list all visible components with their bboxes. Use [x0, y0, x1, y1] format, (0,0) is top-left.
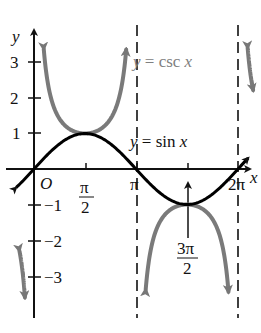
x-tick-label-pi: π — [130, 175, 139, 194]
x-tick-label-3pi-half-num: 3π — [177, 239, 195, 258]
chart-canvas: y x O 3 2 1 −1 −2 −3 π 2 π 3π 2 2π y = c… — [0, 0, 261, 333]
y-axis-label: y — [10, 27, 20, 46]
x-tick-label-pi-half-num: π — [80, 178, 89, 197]
y-tick-label-2: 2 — [10, 89, 19, 108]
sin-label: y = sin x — [128, 132, 188, 151]
x-tick-label-pi-half-den: 2 — [81, 198, 90, 217]
y-tick-label-m1: −1 — [44, 196, 62, 215]
y-tick-label-m3: −3 — [44, 268, 62, 287]
x-tick-label-3pi-half-den: 2 — [183, 259, 192, 278]
x-tick-label-2pi: 2π — [228, 175, 246, 194]
y-tick-label-1: 1 — [12, 124, 21, 143]
x-axis-label: x — [249, 168, 258, 187]
origin-label: O — [40, 174, 52, 193]
y-tick-label-3: 3 — [10, 53, 19, 72]
csc-label: y = csc x — [131, 52, 193, 71]
y-tick-label-m2: −2 — [44, 232, 62, 251]
